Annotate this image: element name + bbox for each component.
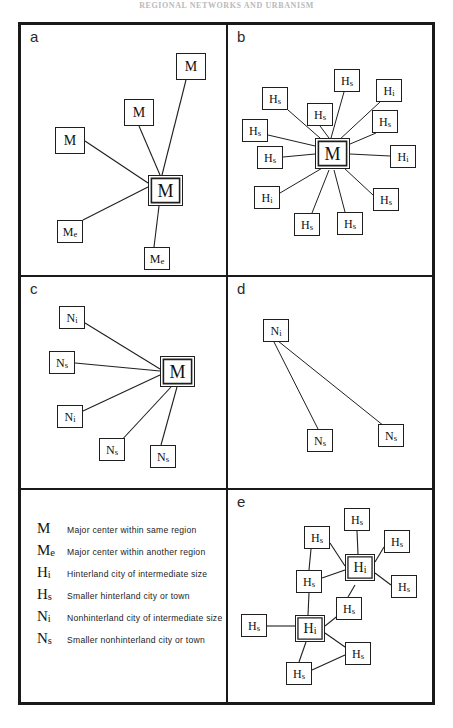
panel-d-links bbox=[228, 277, 436, 488]
node-label: Hs bbox=[351, 514, 363, 526]
node-hs: Hs bbox=[372, 110, 398, 133]
legend-description: Major center within same region bbox=[67, 525, 197, 535]
node-hs: Hs bbox=[344, 508, 370, 531]
node-hs: Hs bbox=[384, 530, 410, 553]
node-label: Hs bbox=[379, 116, 391, 128]
legend-list: M Major center within same region Me Maj… bbox=[37, 520, 226, 652]
node-label: Ni bbox=[270, 325, 281, 337]
node-label: Hs bbox=[352, 648, 364, 660]
hub-node-m: M bbox=[315, 138, 350, 169]
node-label: Hs bbox=[344, 218, 356, 230]
node-ns: Ns bbox=[150, 445, 176, 468]
node-label: M bbox=[185, 60, 197, 74]
node-label: Hs bbox=[269, 93, 281, 105]
panel-a-letter: a bbox=[30, 29, 38, 44]
legend-key-ni: Ni bbox=[37, 608, 67, 625]
legend-row: M Major center within same region bbox=[37, 520, 226, 542]
node-hi: Hi bbox=[376, 79, 402, 102]
hub-node-m: M bbox=[160, 356, 195, 387]
legend-row: Hi Hinterland city of intermediate size bbox=[37, 564, 226, 586]
node-label: Hs bbox=[249, 125, 261, 137]
legend-key-hi: Hi bbox=[37, 564, 67, 581]
legend-description: Hinterland city of intermediate size bbox=[67, 569, 207, 579]
node-label: Ni bbox=[66, 312, 77, 324]
legend-row: Hs Smaller hinterland city or town bbox=[37, 586, 226, 608]
node-hs: Hs bbox=[345, 642, 371, 665]
node-hi: Hi bbox=[390, 145, 416, 168]
node-ni: Ni bbox=[59, 306, 85, 329]
node-ns: Ns bbox=[378, 424, 404, 447]
node-label: Ns bbox=[56, 357, 68, 369]
hub-label: M bbox=[169, 363, 185, 381]
legend-key-me: Me bbox=[37, 542, 67, 559]
node-label: M bbox=[133, 106, 145, 120]
legend-row: Me Major center within another region bbox=[37, 542, 226, 564]
node-label: Ns bbox=[385, 430, 397, 442]
legend-description: Nonhinterland city of intermediate size bbox=[67, 613, 222, 623]
legend-key-hs: Hs bbox=[37, 586, 67, 603]
hub-node-m: M bbox=[148, 175, 183, 206]
node-label: Me bbox=[150, 253, 165, 265]
node-label: Hs bbox=[311, 532, 323, 544]
node-m: M bbox=[55, 127, 85, 154]
node-me: Me bbox=[144, 247, 170, 270]
panel-b: b Hs Hi Hs Hs Hs Hs Hs Hi Hi bbox=[228, 25, 436, 275]
legend-key-ns: Ns bbox=[37, 630, 67, 647]
legend-panel: M Major center within same region Me Maj… bbox=[21, 490, 226, 705]
legend-description: Smaller hinterland city or town bbox=[67, 591, 190, 601]
node-hs: Hs bbox=[242, 119, 268, 142]
node-label: Ns bbox=[314, 435, 326, 447]
panel-e: e Hs Hs Hs Hs Hs Hs Hs Hs bbox=[228, 490, 436, 705]
panel-c: c Ni Ns Ni Ns Ns M bbox=[21, 277, 226, 488]
legend-row: Ns Smaller nonhinterland city or town bbox=[37, 630, 226, 652]
panel-a: a M M M Me Me M bbox=[21, 25, 226, 275]
node-hs: Hs bbox=[296, 570, 322, 593]
node-ns: Ns bbox=[307, 429, 333, 452]
legend-row: Ni Nonhinterland city of intermediate si… bbox=[37, 608, 226, 630]
running-head: REGIONAL NETWORKS AND URBANISM bbox=[0, 0, 453, 11]
figure-frame: a M M M Me Me M b bbox=[18, 22, 435, 705]
node-label: Hs bbox=[248, 620, 260, 632]
node-hs: Hs bbox=[257, 146, 283, 169]
node-hs: Hs bbox=[307, 103, 333, 126]
panel-d: d Ni Ns Ns bbox=[228, 277, 436, 488]
legend-key-m: M bbox=[37, 520, 67, 537]
panel-c-letter: c bbox=[30, 281, 38, 296]
node-hs: Hs bbox=[337, 212, 363, 235]
node-hs: Hs bbox=[373, 188, 399, 211]
node-m: M bbox=[176, 53, 206, 80]
node-label: Hs bbox=[391, 536, 403, 548]
node-hs: Hs bbox=[294, 213, 320, 236]
hub-label: M bbox=[157, 182, 173, 200]
node-label: Me bbox=[63, 226, 78, 238]
node-label: Hs bbox=[314, 109, 326, 121]
hub-label: M bbox=[324, 145, 340, 163]
node-hs: Hs bbox=[286, 662, 312, 685]
node-label: Ni bbox=[64, 411, 75, 423]
node-hs: Hs bbox=[304, 526, 330, 549]
node-hs: Hs bbox=[336, 597, 362, 620]
node-label: Hi bbox=[261, 192, 272, 204]
node-label: Hs bbox=[380, 194, 392, 206]
legend-description: Smaller nonhinterland city or town bbox=[67, 635, 205, 645]
node-ns: Ns bbox=[49, 351, 75, 374]
node-label: Hs bbox=[343, 603, 355, 615]
node-label: Hi bbox=[383, 85, 394, 97]
node-label: Hs bbox=[264, 152, 276, 164]
node-me: Me bbox=[57, 220, 83, 243]
node-ni: Ni bbox=[57, 405, 83, 428]
node-label: Hs bbox=[293, 668, 305, 680]
node-m: M bbox=[124, 99, 154, 126]
legend-description: Major center within another region bbox=[67, 547, 205, 557]
node-hs: Hs bbox=[334, 69, 360, 92]
node-label: Ns bbox=[106, 444, 118, 456]
node-hi: Hi bbox=[254, 186, 280, 209]
panel-d-letter: d bbox=[237, 281, 245, 296]
node-ni: Ni bbox=[263, 319, 289, 342]
node-label: Hs bbox=[301, 219, 313, 231]
node-ns: Ns bbox=[99, 438, 125, 461]
hub-node-hi-top: Hi bbox=[345, 554, 375, 581]
node-label: Hs bbox=[303, 576, 315, 588]
hub-node-hi-bottom: Hi bbox=[295, 615, 325, 642]
panel-b-letter: b bbox=[237, 29, 245, 44]
